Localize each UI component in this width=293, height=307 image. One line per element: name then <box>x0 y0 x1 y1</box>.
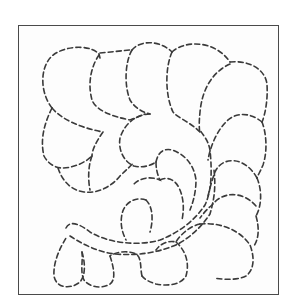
feather-plume-right-2 <box>257 122 266 178</box>
feather-plume-right-4 <box>254 216 258 246</box>
feather-plume-bottom-right-inner <box>156 224 200 250</box>
feather-plume-left-1 <box>42 108 92 168</box>
feather-plume-top-3-cap <box>132 43 172 52</box>
feather-plume-top-2-edge <box>100 50 130 53</box>
feather-plume-right-3 <box>256 178 261 216</box>
feather-plume-bottom-4 <box>54 238 84 287</box>
feather-plume-top-4 <box>167 52 200 132</box>
feather-spine-outer <box>66 130 211 243</box>
feather-plume-bottom-2 <box>110 252 142 276</box>
feather-plume-left-2-inner <box>89 156 92 190</box>
feather-plume-bottom-right <box>200 224 253 280</box>
feather-plume-top-2 <box>90 55 145 120</box>
feather-plume-top-4-cap <box>172 44 230 62</box>
feather-plume-left-2 <box>58 162 134 192</box>
feather-plume-left-1-inner <box>92 132 103 156</box>
feather-plume-right-1 <box>230 62 267 122</box>
feather-spine-inner <box>70 170 215 255</box>
feather-swirl-loop <box>134 162 160 184</box>
feather-plume-right-2-inner <box>208 115 262 161</box>
feather-quilting-pattern <box>0 0 293 307</box>
feather-plume-middle <box>160 178 183 220</box>
feather-plume-middle-lower <box>121 199 146 240</box>
feather-plume-top-3 <box>126 50 150 114</box>
feather-plume-top-left-lower <box>52 108 103 132</box>
feather-plume-bottom-3 <box>82 252 114 287</box>
feather-plume-middle-lower-right <box>146 200 152 232</box>
feather-swirl-center <box>120 114 156 167</box>
